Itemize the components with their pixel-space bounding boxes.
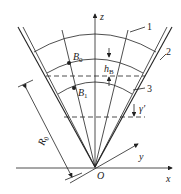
r0-label: R0 (35, 133, 51, 148)
gamma-label: γ' (139, 103, 146, 114)
origin-label: O (97, 170, 104, 181)
radial-line-right (95, 30, 128, 167)
r0-dimension (26, 88, 72, 177)
callout-1: 1 (147, 21, 152, 32)
point-b0 (67, 61, 71, 65)
cone-wall-right-outer (95, 27, 172, 167)
b0-label: B0 (73, 51, 83, 64)
z-axis-label: z (99, 11, 104, 22)
leader-1 (130, 27, 145, 32)
callout-2: 2 (166, 46, 171, 57)
y-axis-label: y (138, 151, 144, 162)
point-b1 (72, 86, 76, 90)
cone-diagram: z x y O B0 B1 hB γ' R0 1 2 3 (0, 0, 181, 194)
r0-ext-bottom (65, 173, 82, 180)
b1-label: B1 (78, 87, 88, 100)
callout-3: 3 (147, 83, 152, 94)
diagram: z x y O B0 B1 hB γ' R0 1 2 3 (0, 0, 181, 194)
hb-label: hB (104, 63, 114, 76)
r0-ext-top (18, 80, 33, 87)
cone-wall-right-inner (95, 27, 167, 167)
x-axis-label: x (165, 173, 171, 184)
